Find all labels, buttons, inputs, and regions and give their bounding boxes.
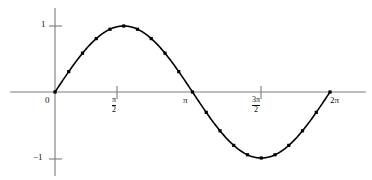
data-point-marker <box>81 52 84 55</box>
x-axis-label-zero: 0 <box>45 96 50 105</box>
data-point-marker <box>53 90 56 93</box>
fraction-pi-over-2: π 2 <box>112 96 116 115</box>
data-point-marker <box>315 111 318 114</box>
fraction-numerator: 3π <box>252 96 260 104</box>
data-point-marker <box>328 90 331 93</box>
fraction-3pi-over-2: 3π 2 <box>252 96 260 115</box>
data-point-marker <box>232 144 235 147</box>
y-axis-label-minus-one: −1 <box>33 153 43 162</box>
data-point-marker <box>177 70 180 73</box>
x-axis-label-pi: π <box>183 96 188 105</box>
x-axis-label-pi-over-2: π 2 <box>112 96 116 115</box>
x-axis-label-3pi-over-2: 3π 2 <box>252 96 260 115</box>
fraction-denominator: 2 <box>252 106 260 114</box>
data-point-marker <box>218 129 221 132</box>
fraction-denominator: 2 <box>112 106 116 114</box>
sine-plot: 1 −1 0 π 2 π 3π 2 2π <box>0 0 372 180</box>
y-axis-label-one: 1 <box>41 20 46 29</box>
data-point-marker <box>301 129 304 132</box>
data-point-marker <box>108 28 111 31</box>
axes-group <box>10 8 366 176</box>
data-point-marker <box>287 144 290 147</box>
data-point-marker <box>273 153 276 156</box>
data-point-marker <box>191 90 194 93</box>
data-point-marker <box>246 153 249 156</box>
data-point-marker <box>163 52 166 55</box>
data-point-marker <box>150 37 153 40</box>
data-point-marker <box>136 28 139 31</box>
plot-canvas <box>0 0 372 180</box>
data-point-marker <box>122 24 125 27</box>
fraction-numerator: π <box>112 96 116 104</box>
data-point-marker <box>205 111 208 114</box>
data-point-marker <box>67 70 70 73</box>
data-point-marker <box>260 156 263 159</box>
x-axis-label-2pi: 2π <box>330 96 339 105</box>
data-point-marker <box>95 37 98 40</box>
